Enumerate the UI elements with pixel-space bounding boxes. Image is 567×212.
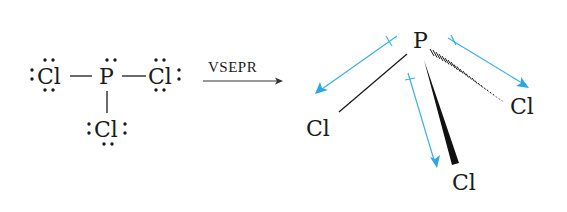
lewis-structure: Cl P Cl Cl [30,58,180,145]
geometry-cl-bottom: Cl [452,170,476,195]
lewis-cl-bottom: Cl [87,117,126,146]
atom-label: P [99,64,114,89]
vsepr-diagram: Cl P Cl Cl [0,0,567,212]
vsepr-label: VSEPR [208,59,257,75]
geometry-cl-left: Cl [306,116,330,141]
dipole-arrow-right [448,35,529,88]
bond-wedge-front [424,60,459,165]
lewis-p-central: P [99,58,117,89]
dipole-arrow-left [315,36,397,94]
arrow-head-icon [516,77,529,88]
geometry-p-central: P [413,28,428,53]
arrow-head-icon [315,82,328,94]
atom-label: Cl [148,64,172,89]
atom-label: Cl [94,117,118,142]
atom-label: Cl [37,64,61,89]
molecular-geometry: P Cl Cl [306,28,534,195]
geometry-cl-right: Cl [510,94,534,119]
dipole-arrow-bottom [405,73,440,168]
arrow-head-icon [430,155,440,168]
vsepr-transform-arrow: VSEPR [203,59,283,85]
bond-hash-back [430,49,503,101]
lewis-cl-right: Cl [148,58,181,91]
lewis-cl-left: Cl [30,58,61,91]
bond-plane-left [339,54,407,112]
